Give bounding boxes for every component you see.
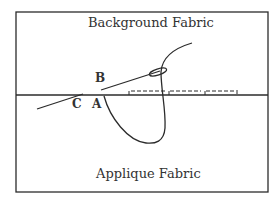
background-fabric-label: Background Fabric <box>88 15 214 30</box>
applique-fabric-label: Applique Fabric <box>96 166 201 181</box>
point-b-label: B <box>95 71 105 85</box>
thread-loop <box>104 43 192 143</box>
fabric-frame <box>16 12 268 192</box>
point-a-label: A <box>92 97 101 111</box>
stitch-dashes <box>129 90 237 95</box>
point-c-label: C <box>72 97 82 111</box>
needle-shaft <box>101 71 160 90</box>
